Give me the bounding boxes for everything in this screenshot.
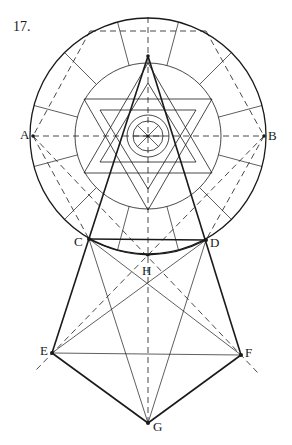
dashed-construction (33, 17, 264, 423)
point-g (146, 421, 150, 425)
label-c: C (74, 235, 83, 248)
diagram-canvas: 17. A B C D H E F G (0, 0, 292, 445)
point-c (87, 237, 91, 241)
point-e (50, 351, 54, 355)
point-f (239, 353, 243, 357)
geometric-construction (0, 0, 292, 445)
point-d (204, 238, 208, 242)
label-h: H (142, 264, 151, 277)
label-e: E (40, 344, 48, 357)
label-f: F (245, 346, 252, 359)
label-d: D (210, 236, 219, 249)
point-center (146, 134, 149, 137)
point-apex (146, 54, 150, 58)
figure-number: 17. (13, 20, 31, 34)
label-b: B (268, 129, 277, 142)
point-h (146, 253, 149, 256)
point-a (31, 134, 35, 138)
point-b (262, 134, 266, 138)
label-g: G (153, 420, 162, 433)
label-a: A (20, 128, 29, 141)
